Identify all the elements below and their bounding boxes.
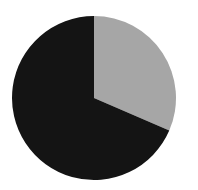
pie-chart — [0, 0, 198, 190]
pie-slices — [12, 16, 176, 180]
